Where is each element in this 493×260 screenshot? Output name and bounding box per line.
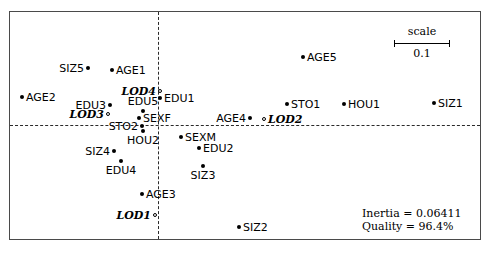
point-label: HOU2 — [127, 135, 159, 146]
point-marker-icon — [141, 129, 145, 133]
point-marker-icon — [197, 146, 201, 150]
point-label: STO1 — [291, 99, 320, 110]
inertia-value: Inertia = 0.06411 — [362, 207, 461, 220]
quality-value: Quality = 96.4% — [362, 220, 461, 233]
correspondence-analysis-plot: SIZ5AGE1AGE5AGE2LOD4EDU1EDU3EDU5STO1HOU1… — [0, 0, 493, 260]
point-marker-icon — [106, 112, 110, 116]
scale-legend-value: 0.1 — [386, 48, 458, 60]
point-label: AGE1 — [116, 65, 146, 76]
point-marker-icon — [248, 116, 252, 120]
point-marker-icon — [201, 164, 205, 168]
point-label: SIZ2 — [243, 222, 268, 233]
point-label: LOD2 — [268, 114, 303, 125]
point-label: AGE2 — [26, 92, 56, 103]
point-marker-icon — [119, 159, 123, 163]
point-label: SIZ4 — [85, 146, 110, 157]
point-marker-icon — [108, 103, 112, 107]
point-marker-icon — [342, 102, 346, 106]
point-marker-icon — [140, 124, 144, 128]
scale-legend-bar — [394, 40, 450, 47]
point-label: SEXM — [185, 132, 216, 143]
point-marker-icon — [20, 95, 24, 99]
horizontal-axis-dashed — [10, 125, 480, 126]
point-marker-icon — [432, 101, 436, 105]
scale-legend: scale 0.1 — [386, 26, 458, 60]
scale-bar-tick-left — [394, 40, 395, 47]
statistics-annotation: Inertia = 0.06411 Quality = 96.4% — [362, 207, 461, 233]
point-marker-icon — [237, 225, 241, 229]
scale-bar-rule — [394, 43, 450, 44]
point-label: HOU1 — [348, 99, 380, 110]
point-label: AGE4 — [216, 113, 246, 124]
point-marker-icon — [153, 213, 157, 217]
vertical-axis-dashed — [158, 12, 159, 239]
point-label: LOD1 — [116, 210, 151, 221]
point-label: EDU5 — [128, 96, 158, 107]
scale-legend-title: scale — [386, 26, 458, 38]
point-label: SEXF — [143, 113, 171, 124]
point-label: STO2 — [109, 121, 138, 132]
point-label: LOD3 — [69, 109, 104, 120]
point-marker-icon — [158, 89, 162, 93]
point-label: SIZ1 — [438, 98, 463, 109]
point-marker-icon — [262, 117, 266, 121]
point-label: SIZ5 — [59, 63, 84, 74]
point-label: EDU2 — [203, 143, 233, 154]
point-marker-icon — [301, 55, 305, 59]
point-label: SIZ3 — [191, 170, 216, 181]
point-label: AGE5 — [307, 52, 337, 63]
point-marker-icon — [112, 149, 116, 153]
point-marker-icon — [140, 192, 144, 196]
point-marker-icon — [86, 66, 90, 70]
scale-bar-tick-right — [449, 40, 450, 47]
point-label: EDU1 — [164, 93, 194, 104]
point-marker-icon — [179, 135, 183, 139]
point-marker-icon — [158, 96, 162, 100]
point-marker-icon — [285, 102, 289, 106]
point-marker-icon — [110, 68, 114, 72]
point-label: AGE3 — [146, 189, 176, 200]
point-label: EDU4 — [106, 165, 136, 176]
